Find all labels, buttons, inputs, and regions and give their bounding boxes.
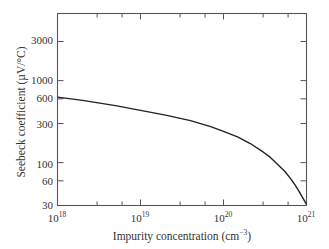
axes-box <box>58 14 307 206</box>
y-axis-label: Seebeck coefficient (µV/°C) <box>15 46 28 177</box>
y-tick-label-100: 100 <box>37 158 54 170</box>
y-tick-label-60: 60 <box>42 175 54 187</box>
x-tick-label-1e19: 1019 <box>131 210 150 224</box>
seebeck-curve <box>58 97 307 204</box>
y-tick-label-1000: 1000 <box>31 74 54 86</box>
axis-ticks <box>58 14 307 206</box>
data-curve <box>58 97 307 204</box>
y-tick-labels: 3000 1000 600 300 100 60 30 <box>31 34 54 211</box>
y-tick-label-30: 30 <box>42 199 54 211</box>
y-tick-label-3000: 3000 <box>31 34 54 46</box>
x-axis-label: Impurity concentration (cm−3) <box>113 228 251 243</box>
x-tick-label-1e20: 1020 <box>214 210 233 224</box>
x-tick-label-1e21: 1021 <box>297 210 316 224</box>
y-tick-label-300: 300 <box>37 118 54 130</box>
x-tick-labels: 1018 1019 1020 1021 <box>48 210 316 224</box>
x-tick-label-1e18: 1018 <box>48 210 67 224</box>
y-tick-label-600: 600 <box>37 92 54 104</box>
seebeck-chart: 3000 1000 600 300 100 60 30 1018 1019 10… <box>0 0 329 249</box>
plot-frame <box>58 14 307 206</box>
